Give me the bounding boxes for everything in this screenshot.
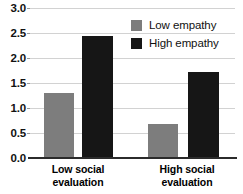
gridline-3-0 [30, 8, 235, 9]
y-tick-label-0-5: 0.5 [0, 128, 26, 140]
x-category-label-line-2: evaluation [139, 176, 235, 189]
x-category-label-line-1: Low social [30, 163, 126, 176]
x-category-label-high-social-evaluation: High social evaluation [139, 163, 235, 189]
y-tick-label-3-0: 3.0 [0, 3, 26, 15]
bar-low-empathy-high-social-evaluation [148, 124, 178, 158]
x-category-label-low-social-evaluation: Low social evaluation [30, 163, 126, 189]
bar-high-empathy-low-social-evaluation [82, 36, 113, 158]
x-category-label-line-1: High social [139, 163, 235, 176]
bar-low-empathy-low-social-evaluation [44, 93, 74, 158]
x-axis-line [28, 157, 237, 159]
legend-item-low-empathy: Low empathy [131, 19, 219, 32]
legend-label-high-empathy: High empathy [149, 38, 219, 50]
legend: Low empathy High empathy [131, 19, 219, 50]
bar-chart: 3.0 2.5 2.0 1.5 1.0 0.5 0.0 [0, 0, 243, 194]
y-tick-label-1-0: 1.0 [0, 103, 26, 115]
x-category-label-line-2: evaluation [30, 176, 126, 189]
gridline-2-0 [30, 58, 235, 59]
legend-swatch-icon-high-empathy [131, 38, 142, 49]
y-tick-label-2-5: 2.5 [0, 28, 26, 40]
legend-label-low-empathy: Low empathy [149, 20, 216, 32]
legend-swatch-icon-low-empathy [131, 20, 142, 31]
legend-item-high-empathy: High empathy [131, 37, 219, 50]
bar-high-empathy-high-social-evaluation [188, 72, 219, 158]
y-tick-label-2-0: 2.0 [0, 53, 26, 65]
y-tick-label-1-5: 1.5 [0, 78, 26, 90]
y-tick-label-0-0: 0.0 [0, 153, 26, 165]
